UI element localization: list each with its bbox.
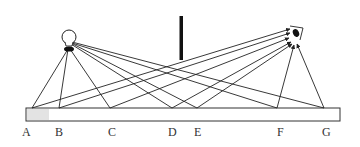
point-labels: A B C D E F G (22, 125, 331, 139)
eye-icon (290, 26, 303, 40)
reflected-rays (32, 29, 324, 108)
mirror (26, 108, 340, 121)
label-d: D (168, 125, 177, 139)
label-e: E (194, 125, 201, 139)
light-bulb-icon (62, 30, 76, 52)
label-b: B (55, 125, 63, 139)
reflection-diagram: A B C D E F G (0, 0, 360, 147)
label-a: A (22, 125, 31, 139)
barrier (180, 16, 184, 60)
label-g: G (322, 125, 331, 139)
mirror-shaded-end (27, 109, 49, 120)
label-f: F (277, 125, 284, 139)
label-c: C (108, 125, 116, 139)
